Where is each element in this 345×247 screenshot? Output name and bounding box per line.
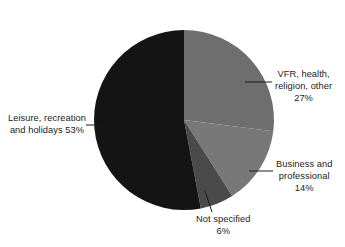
slice-label-business-value: 14% <box>276 182 332 194</box>
slice-label-vfr-line-1: VFR, health, <box>275 68 332 80</box>
slice-label-not-specified: Not specified 6% <box>196 213 250 237</box>
slice-label-not-specified-value: 6% <box>196 225 250 237</box>
pie-chart: VFR, health, religion, other 27% Busines… <box>0 0 345 247</box>
slice-label-leisure: Leisure, recreation and holidays 53% <box>8 112 86 136</box>
slice-label-leisure-line-1: Leisure, recreation <box>8 112 86 124</box>
slice-label-business-line-1: Business and <box>276 158 332 170</box>
slice-label-leisure-line-2: and holidays 53% <box>8 124 86 136</box>
slice-label-not-specified-line-1: Not specified <box>196 213 250 225</box>
slice-label-vfr: VFR, health, religion, other 27% <box>275 68 332 105</box>
slice-label-vfr-line-2: religion, other <box>275 80 332 92</box>
slice-label-business-line-2: professional <box>276 170 332 182</box>
slice-label-vfr-value: 27% <box>275 92 332 104</box>
pie-slice-vfr[interactable] <box>184 30 274 131</box>
slice-label-business: Business and professional 14% <box>276 158 332 195</box>
